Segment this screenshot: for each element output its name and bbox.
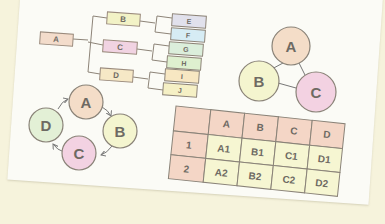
svg-text:A: A — [53, 35, 60, 44]
table-cell: B2 — [248, 170, 262, 182]
table-cell: B1 — [251, 146, 265, 158]
svg-text:B: B — [120, 15, 127, 24]
triangle-node-c: C — [296, 72, 336, 112]
svg-text:C: C — [74, 145, 85, 162]
svg-text:A: A — [286, 38, 297, 55]
cycle-node-a: A — [69, 85, 103, 119]
tree-node-c: C — [103, 40, 138, 54]
table-header-d: D — [323, 129, 331, 141]
arrow-icon — [101, 146, 112, 155]
svg-text:D: D — [113, 71, 120, 80]
svg-text:B: B — [254, 73, 265, 90]
tree-node-g: G — [169, 42, 204, 56]
table-header-c: C — [290, 125, 298, 137]
cycle-node-b: B — [103, 114, 137, 148]
svg-text:H: H — [181, 60, 187, 67]
tree-node-a: A — [40, 32, 74, 46]
tree-node-j: J — [163, 83, 198, 97]
tree-node-h: H — [167, 56, 202, 70]
tree-node-i: I — [165, 69, 200, 83]
cycle-diagram: A B C D — [29, 85, 137, 170]
svg-text:E: E — [186, 18, 191, 25]
tree-node-d: D — [100, 68, 134, 82]
arrow-icon — [102, 107, 111, 116]
svg-text:G: G — [183, 46, 189, 53]
table-cell: A1 — [217, 143, 231, 155]
table-header-b: B — [256, 122, 264, 134]
table-cell: D1 — [317, 153, 331, 165]
svg-text:D: D — [41, 117, 52, 134]
triangle-graph: A B C — [239, 27, 336, 112]
tree-node-f: F — [171, 28, 206, 42]
tree-node-e: E — [172, 14, 207, 28]
table-cell: C1 — [284, 150, 298, 162]
cycle-node-c: C — [62, 136, 96, 170]
table-cell: C2 — [282, 174, 296, 186]
table-cell: D2 — [315, 177, 329, 189]
grid-table: A B C D 1 A1 B1 C1 D1 2 A2 B2 C2 D2 — [168, 106, 345, 196]
table-header-a: A — [222, 118, 230, 130]
arrow-icon — [58, 99, 68, 109]
triangle-node-b: B — [239, 61, 279, 101]
svg-text:C: C — [311, 84, 322, 101]
triangle-node-a: A — [272, 27, 310, 65]
table-cell: A2 — [214, 166, 228, 178]
diagram-canvas: A B C D E F G H I J A — [0, 0, 385, 224]
cycle-node-d: D — [29, 108, 63, 142]
svg-text:B: B — [115, 123, 126, 140]
svg-text:J: J — [178, 87, 182, 94]
tree-node-b: B — [107, 12, 141, 26]
svg-text:A: A — [81, 94, 92, 111]
svg-text:C: C — [117, 43, 124, 52]
